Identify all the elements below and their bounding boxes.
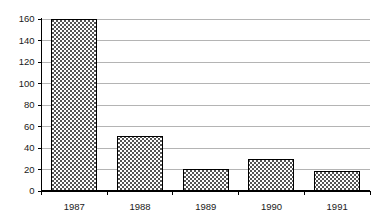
bar [315,172,360,191]
x-tick-label: 1989 [195,201,216,212]
y-tick-label: 160 [19,13,35,24]
y-tick-label: 100 [19,78,35,89]
y-tick-label: 140 [19,35,35,46]
y-tick-label: 120 [19,56,35,67]
y-tick-label: 60 [24,121,35,132]
y-axis-ticks: 020406080100120140160 [19,13,42,196]
y-tick-label: 20 [24,164,35,175]
bar [52,19,97,191]
bar-chart-figure: 020406080100120140160 198719881989199019… [0,0,376,222]
bar [183,170,228,192]
x-tick-label: 1988 [129,201,150,212]
bar [118,136,163,191]
y-tick-label: 80 [24,99,35,110]
y-tick-label: 40 [24,142,35,153]
x-tick-label: 1987 [64,201,85,212]
x-tick-label: 1990 [261,201,282,212]
x-tick-label: 1991 [327,201,348,212]
x-axis-ticks: 19871988198919901991 [42,191,371,212]
chart-canvas: 020406080100120140160 198719881989199019… [0,0,376,222]
bar [249,160,294,191]
y-tick-label: 0 [29,185,34,196]
